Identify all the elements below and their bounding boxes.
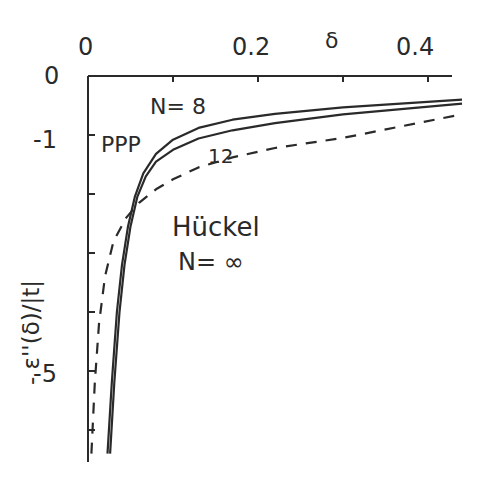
y-axis-title: - ε''(δ)/|t| — [18, 280, 44, 385]
x-tick-label-0: 0 — [78, 35, 93, 59]
y-tick-label-neg1: -1 — [33, 128, 57, 152]
ticks — [88, 76, 428, 430]
y-tick-label-0: 0 — [44, 64, 59, 88]
annotation-12: 12 — [208, 146, 233, 166]
series-group — [91, 100, 462, 454]
series-line-2 — [91, 114, 462, 453]
annotation-n-infinity: N= ∞ — [178, 250, 244, 274]
series-line-1 — [110, 104, 462, 454]
x-tick-label-0.4: 0.4 — [396, 35, 434, 59]
x-tick-label-0.2: 0.2 — [232, 35, 270, 59]
annotation-n8: N= 8 — [150, 96, 206, 118]
annotation-huckel: Hückel — [172, 214, 260, 240]
annotation-ppp: PPP — [101, 134, 141, 156]
x-axis-title: δ — [325, 30, 338, 52]
plot-area — [0, 0, 478, 489]
series-line-0 — [108, 100, 463, 454]
axes — [88, 76, 452, 462]
